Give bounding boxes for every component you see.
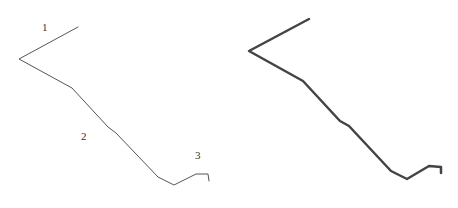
figure-canvas: 1 2 3 (0, 0, 458, 208)
right-panel (249, 19, 441, 179)
right-path-line (249, 19, 441, 179)
segment-label-1: 1 (42, 21, 48, 33)
left-panel: 1 2 3 (19, 21, 209, 185)
segment-label-3: 3 (195, 149, 201, 161)
left-path-line (19, 27, 209, 185)
segment-label-2: 2 (81, 130, 87, 142)
